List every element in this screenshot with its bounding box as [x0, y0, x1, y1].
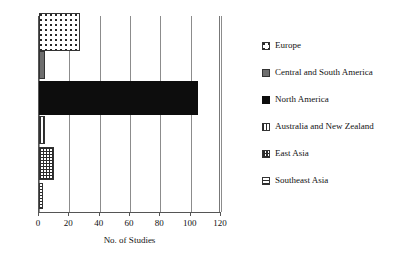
legend: EuropeCentral and South AmericaNorth Ame… — [262, 40, 394, 202]
legend-swatch-icon — [262, 96, 270, 104]
legend-item-north-america: North America — [262, 94, 394, 121]
x-tick-label-40: 40 — [84, 218, 114, 229]
legend-item-label: North America — [275, 94, 329, 105]
x-tick-label-80: 80 — [144, 218, 174, 229]
legend-item-australia-and-new-zealand: Australia and New Zealand — [262, 121, 394, 148]
x-tick-label-100: 100 — [175, 218, 205, 229]
legend-item-label: Australia and New Zealand — [275, 121, 374, 132]
legend-swatch-icon — [262, 123, 270, 131]
bar-north-america — [39, 81, 198, 115]
x-tick-20 — [68, 212, 69, 216]
legend-swatch-icon — [262, 42, 270, 50]
bar-east-asia — [39, 147, 54, 180]
bar-chart-figure: 020406080100120 No. of Studies EuropeCen… — [0, 0, 394, 258]
legend-swatch-icon — [262, 150, 270, 158]
x-tick-80 — [159, 212, 160, 216]
legend-item-east-asia: East Asia — [262, 148, 394, 175]
x-tick-120 — [220, 212, 221, 216]
x-tick-60 — [129, 212, 130, 216]
legend-item-southeast-asia: Southeast Asia — [262, 175, 394, 202]
x-tick-label-20: 20 — [53, 218, 83, 229]
legend-item-europe: Europe — [262, 40, 394, 67]
legend-item-label: Central and South America — [275, 67, 373, 78]
bar-europe — [39, 13, 80, 51]
bar-southeast-asia — [39, 183, 43, 209]
x-tick-label-60: 60 — [114, 218, 144, 229]
legend-item-label: Europe — [275, 40, 301, 51]
bar-australia-and-new-zealand — [39, 116, 45, 144]
gridline-120 — [221, 16, 222, 212]
x-tick-label-0: 0 — [23, 218, 53, 229]
legend-item-label: Southeast Asia — [275, 175, 328, 186]
x-tick-0 — [38, 212, 39, 216]
x-tick-label-120: 120 — [205, 218, 235, 229]
legend-item-label: East Asia — [275, 148, 309, 159]
legend-swatch-icon — [262, 69, 270, 77]
legend-item-central-and-south-america: Central and South America — [262, 67, 394, 94]
plot-area — [38, 16, 220, 212]
legend-swatch-icon — [262, 177, 270, 185]
x-tick-40 — [99, 212, 100, 216]
x-axis-title: No. of Studies — [38, 235, 221, 245]
bar-central-and-south-america — [39, 51, 45, 79]
x-tick-100 — [190, 212, 191, 216]
